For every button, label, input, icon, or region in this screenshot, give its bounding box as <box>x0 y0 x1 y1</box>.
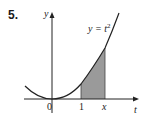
origin-label: 0 <box>47 101 52 112</box>
tick-label-1: 1 <box>79 101 84 112</box>
t-axis-arrow-icon <box>133 97 139 102</box>
shaded-area <box>81 48 105 99</box>
tick-label-x: x <box>101 101 107 112</box>
curve-label: y = t2 <box>87 22 111 34</box>
y-axis-label: y <box>43 8 49 19</box>
t-axis-label: t <box>134 104 137 115</box>
integral-diagram: y t 0 1 x y = t2 <box>0 0 143 116</box>
y-axis-arrow-icon <box>50 12 55 18</box>
